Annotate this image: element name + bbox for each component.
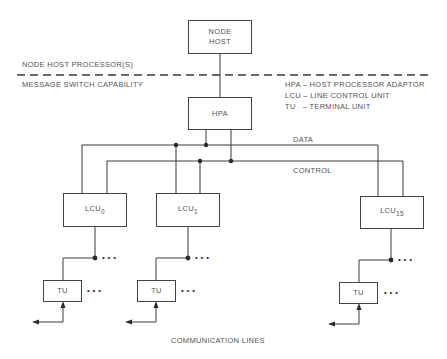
- comm-line-15: [332, 309, 359, 324]
- tu-box: TU: [43, 280, 82, 302]
- arrow-up-icon: [357, 303, 362, 310]
- tu-label: TU: [151, 286, 162, 296]
- more-tus-ellipsis: • • •: [102, 254, 116, 262]
- control-bus: [107, 161, 403, 196]
- junction-dot: [204, 143, 208, 147]
- comm-line-1: [129, 307, 156, 322]
- layer-label-lower: MESSAGE SWITCH CAPABILITY: [22, 81, 143, 89]
- more-tus-ellipsis: • • •: [195, 254, 209, 262]
- hpa-label: HPA: [212, 109, 228, 119]
- more-tus-ellipsis: • • •: [398, 256, 412, 264]
- lcu-0-box: LCU0: [63, 193, 127, 227]
- arrow-up-icon: [61, 301, 66, 308]
- lcu-15-label: LCU15: [380, 206, 404, 218]
- lcu15-tu-link: [359, 228, 391, 282]
- legend-tu: TU – TERMINAL UNIT: [285, 103, 371, 111]
- arrow-left-icon: [125, 320, 132, 325]
- lcu-0-label: LCU0: [85, 204, 105, 216]
- junction-dot: [229, 159, 233, 163]
- junction-dot: [186, 256, 191, 261]
- tu-label: TU: [353, 288, 364, 298]
- control-bus-label: CONTROL: [293, 167, 332, 175]
- more-lines-ellipsis: • • •: [384, 289, 398, 297]
- node-host-line2: HOST: [209, 37, 231, 47]
- comm-line-0: [36, 307, 63, 322]
- arrow-up-icon: [154, 301, 159, 308]
- junction-dot: [174, 143, 178, 147]
- arrow-left-icon: [32, 320, 39, 325]
- junction-dot: [93, 256, 98, 261]
- tu-label: TU: [57, 286, 68, 296]
- tu-box: TU: [339, 282, 378, 304]
- more-lines-ellipsis: • • •: [87, 287, 101, 295]
- lcu-15-box: LCU15: [360, 196, 424, 229]
- lcu-1-box: LCU1: [156, 193, 220, 227]
- lcu0-tu-link: [63, 226, 95, 280]
- lcu-1-label: LCU1: [178, 204, 198, 216]
- data-bus-label: DATA: [293, 136, 313, 144]
- tu-box: TU: [137, 280, 176, 302]
- data-bus: [82, 145, 378, 196]
- legend-lcu: LCU – LINE CONTROL UNIT: [285, 92, 390, 100]
- lcu1-tu-link: [156, 226, 188, 280]
- node-host-line1: NODE: [209, 27, 232, 37]
- junction-dot: [198, 159, 202, 163]
- junction-dot: [389, 258, 394, 263]
- arrow-left-icon: [328, 322, 335, 327]
- communication-lines-label: COMMUNICATION LINES: [171, 337, 265, 345]
- hpa-box: HPA: [188, 97, 252, 130]
- legend-hpa: HPA – HOST PROCESSOR ADAPTOR: [285, 81, 425, 89]
- node-host-box: NODE HOST: [188, 20, 252, 54]
- more-lines-ellipsis: • • •: [181, 287, 195, 295]
- layer-label-upper: NODE HOST PROCESSOR(S): [22, 61, 133, 69]
